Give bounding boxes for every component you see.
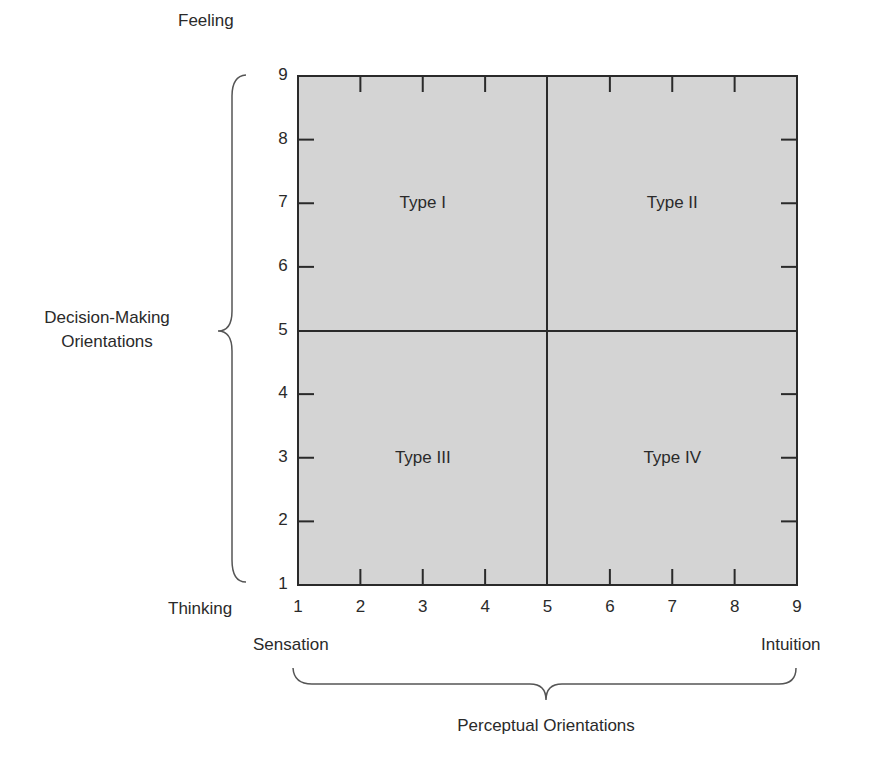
y-tick-label: 6 — [273, 257, 293, 274]
quadrant-label: Type III — [363, 449, 483, 466]
quadrant-diagram — [0, 0, 874, 769]
x-tick-label: 2 — [350, 598, 370, 615]
feeling-label: Feeling — [178, 12, 234, 29]
y-tick-label: 1 — [273, 575, 293, 592]
left-brace — [218, 75, 246, 582]
decision-making-label-line2: Orientations — [0, 333, 214, 350]
quadrant-label: Type IV — [612, 449, 732, 466]
y-tick-label: 7 — [273, 193, 293, 210]
bottom-brace — [293, 668, 796, 700]
x-tick-label: 5 — [538, 598, 558, 615]
x-tick-label: 9 — [787, 598, 807, 615]
decision-making-label-line1: Decision-Making — [0, 309, 214, 326]
x-tick-label: 4 — [475, 598, 495, 615]
x-tick-label: 8 — [725, 598, 745, 615]
y-tick-label: 5 — [273, 321, 293, 338]
x-tick-label: 6 — [600, 598, 620, 615]
intuition-label: Intuition — [761, 636, 821, 653]
x-tick-label: 7 — [662, 598, 682, 615]
y-tick-label: 8 — [273, 130, 293, 147]
y-tick-label: 9 — [273, 66, 293, 83]
quadrant-label: Type II — [612, 194, 732, 211]
y-tick-label: 4 — [273, 384, 293, 401]
y-tick-label: 2 — [273, 511, 293, 528]
y-tick-label: 3 — [273, 448, 293, 465]
x-tick-label: 3 — [413, 598, 433, 615]
perceptual-orientations-label: Perceptual Orientations — [446, 717, 646, 734]
x-tick-label: 1 — [288, 598, 308, 615]
thinking-label: Thinking — [168, 600, 232, 617]
sensation-label: Sensation — [253, 636, 329, 653]
quadrant-label: Type I — [363, 194, 483, 211]
